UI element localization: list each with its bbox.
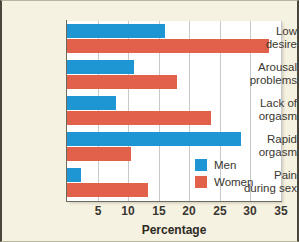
x-tick-label-25: 25 <box>207 204 233 218</box>
x-tick-label-5: 5 <box>85 204 111 218</box>
legend-item-women: Women <box>195 173 253 190</box>
legend-item-men: Men <box>195 156 253 173</box>
category-label-line: Low <box>235 25 297 38</box>
x-axis-title: Percentage <box>67 223 281 237</box>
category-label-line: Rapid <box>235 133 297 146</box>
category-label-line: Arousal <box>235 61 297 74</box>
bar-women-1 <box>67 75 177 89</box>
bar-men-4 <box>67 168 81 182</box>
category-label-2: Lack oforgasm <box>235 97 297 122</box>
category-label-line: desire <box>235 38 297 51</box>
bar-men-1 <box>67 60 134 74</box>
category-label-line: problems <box>235 74 297 87</box>
x-tick-label-15: 15 <box>146 204 172 218</box>
x-tick-label-10: 10 <box>115 204 141 218</box>
category-label-line: Lack of <box>235 97 297 110</box>
x-axis-line <box>66 201 282 202</box>
legend-label: Women <box>214 176 253 188</box>
bar-men-0 <box>67 24 165 38</box>
legend-swatch-icon <box>195 176 207 188</box>
bar-women-4 <box>67 183 148 197</box>
bar-women-2 <box>67 111 211 125</box>
chart-figure: LowdesireArousalproblemsLack oforgasmRap… <box>0 0 299 242</box>
bar-men-3 <box>67 132 241 146</box>
bar-men-2 <box>67 96 116 110</box>
legend-swatch-icon <box>195 159 207 171</box>
category-label-1: Arousalproblems <box>235 61 297 86</box>
x-tick-label-35: 35 <box>268 204 294 218</box>
x-tick-label-20: 20 <box>176 204 202 218</box>
x-tick-label-30: 30 <box>237 204 263 218</box>
category-label-line: orgasm <box>235 110 297 123</box>
bar-women-3 <box>67 147 131 161</box>
legend: MenWomen <box>195 156 253 190</box>
cut-off-title <box>2 1 299 10</box>
category-label-0: Lowdesire <box>235 25 297 50</box>
legend-label: Men <box>214 159 236 171</box>
category-label-3: Rapidorgasm <box>235 133 297 158</box>
